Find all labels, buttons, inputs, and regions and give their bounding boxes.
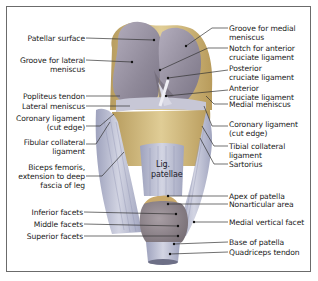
label-line: Tibial collateral [229, 142, 285, 151]
label-inferior-facets: Inferior facets [32, 208, 83, 217]
lig-patellae-line2: patellae [151, 170, 175, 180]
label-nonarticular-area: Nonarticular area [229, 200, 294, 209]
label-line: Sartorius [229, 160, 262, 169]
label-line: Notch for anterior [229, 44, 295, 53]
label-line: Coronary ligament [16, 114, 85, 123]
patella [140, 201, 188, 245]
label-middle-facets: Middle facets [34, 220, 83, 229]
lig-patellae-line1: Lig. [151, 160, 175, 170]
label-line: Lateral meniscus [22, 102, 85, 111]
label-line: ligament [24, 147, 85, 156]
label-line: cruciate ligament [229, 53, 295, 62]
label-popliteus-tendon: Popliteus tendon [23, 92, 85, 101]
label-sartorius: Sartorius [229, 160, 262, 169]
label-patellar-surface: Patellar surface [28, 34, 85, 43]
label-line: Posterior [229, 64, 294, 73]
label-groove-medial-meniscus: Groove for medial meniscus [229, 24, 296, 42]
label-medial-vertical-facet: Medial vertical facet [229, 218, 304, 227]
label-superior-facets: Superior facets [27, 232, 83, 241]
label-line: Anterior [229, 84, 294, 93]
label-line: Biceps femoris, [18, 163, 85, 172]
label-biceps-femoris: Biceps femoris, extension to deep fascia… [18, 163, 85, 190]
label-line: (cut edge) [16, 123, 85, 132]
label-fibular-collateral-ligament: Fibular collateral ligament [24, 138, 85, 156]
label-line: Medial meniscus [229, 100, 291, 109]
label-line: meniscus [20, 65, 85, 74]
label-line: extension to deep [18, 172, 85, 181]
label-line: Popliteus tendon [23, 92, 85, 101]
label-line: Nonarticular area [229, 200, 294, 209]
label-line: Patellar surface [28, 34, 85, 43]
label-line: meniscus [229, 33, 296, 42]
label-posterior-cruciate: Posterior cruciate ligament [229, 64, 294, 82]
label-line: Quadriceps tendon [229, 248, 300, 257]
label-line: Coronary ligament [229, 120, 298, 129]
label-line: Superior facets [27, 232, 83, 241]
label-groove-lateral-meniscus: Groove for lateral meniscus [20, 56, 85, 74]
label-notch-anterior-cruciate: Notch for anterior cruciate ligament [229, 44, 295, 62]
femur [110, 22, 212, 110]
label-line: Middle facets [34, 220, 83, 229]
label-tibial-collateral-ligament: Tibial collateral ligament [229, 142, 285, 160]
label-line: (cut edge) [229, 129, 298, 138]
label-line: Base of patella [229, 238, 284, 247]
label-lateral-meniscus: Lateral meniscus [22, 102, 85, 111]
label-line: cruciate ligament [229, 73, 294, 82]
label-medial-meniscus: Medial meniscus [229, 100, 291, 109]
label-line: Groove for lateral [20, 56, 85, 65]
label-line: Medial vertical facet [229, 218, 304, 227]
label-coronary-ligament-left: Coronary ligament (cut edge) [16, 114, 85, 132]
label-base-of-patella: Base of patella [229, 238, 284, 247]
label-coronary-ligament-right: Coronary ligament (cut edge) [229, 120, 298, 138]
label-line: Inferior facets [32, 208, 83, 217]
label-line: ligament [229, 151, 285, 160]
label-line: fascia of leg [18, 181, 85, 190]
label-quadriceps-tendon: Quadriceps tendon [229, 248, 300, 257]
lig-patellae-label: Lig. patellae [151, 160, 175, 180]
label-line: Groove for medial [229, 24, 296, 33]
label-line: Fibular collateral [24, 138, 85, 147]
